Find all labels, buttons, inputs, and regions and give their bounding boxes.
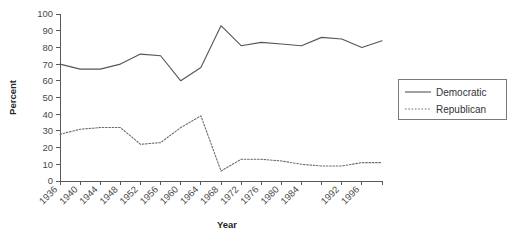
- x-axis-tick-labels: 1936194019441948195219561960196419681972…: [37, 184, 362, 207]
- chart-legend: Democratic Republican: [398, 79, 506, 119]
- y-tick-label: 100: [37, 8, 53, 19]
- y-tick-label: 80: [42, 42, 53, 53]
- x-tick-label: 1980: [258, 184, 281, 207]
- series-line-republican: [60, 116, 382, 171]
- x-tick-label: 1960: [157, 184, 180, 207]
- x-tick-label: 1992: [318, 184, 341, 207]
- x-tick-label: 1984: [278, 184, 301, 207]
- chart-container: 0102030405060708090100 19361940194419481…: [0, 0, 512, 242]
- x-axis-title: Year: [217, 219, 237, 230]
- x-tick-label: 1976: [238, 184, 261, 207]
- x-tick-label: 1964: [178, 184, 201, 207]
- x-tick-label: 1996: [339, 184, 362, 207]
- y-tick-label: 10: [42, 159, 53, 170]
- y-tick-label: 40: [42, 109, 53, 120]
- x-tick-label: 1948: [97, 184, 120, 207]
- x-tick-label: 1972: [218, 184, 241, 207]
- y-tick-label: 50: [42, 92, 53, 103]
- y-axis-title: Percent: [7, 79, 18, 115]
- y-axis-ticks: [56, 14, 60, 181]
- y-tick-label: 60: [42, 75, 53, 86]
- x-tick-label: 1936: [37, 184, 60, 207]
- y-axis-tick-labels: 0102030405060708090100: [37, 8, 53, 186]
- y-tick-label: 30: [42, 125, 53, 136]
- y-tick-label: 90: [42, 25, 53, 36]
- legend-label-democratic: Democratic: [436, 87, 487, 98]
- x-tick-label: 1944: [77, 184, 100, 207]
- x-tick-label: 1940: [57, 184, 80, 207]
- y-tick-label: 20: [42, 142, 53, 153]
- x-tick-label: 1956: [137, 184, 160, 207]
- y-tick-label: 70: [42, 59, 53, 70]
- line-chart: 0102030405060708090100 19361940194419481…: [0, 0, 512, 242]
- x-tick-label: 1952: [117, 184, 140, 207]
- series-line-democratic: [60, 26, 382, 81]
- legend-label-republican: Republican: [436, 104, 486, 115]
- x-tick-label: 1968: [198, 184, 221, 207]
